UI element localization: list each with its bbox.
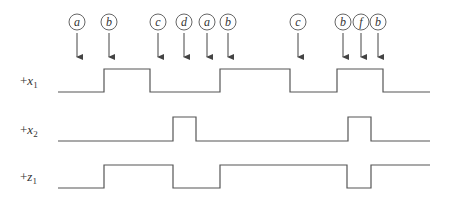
event-marker-d: d — [176, 14, 192, 57]
event-label: b — [106, 15, 112, 29]
event-label: f — [359, 15, 364, 29]
signal-label-x1: +x1 — [20, 73, 38, 90]
event-label: d — [181, 15, 188, 29]
event-marker-b: b — [335, 14, 351, 57]
event-label: c — [155, 15, 161, 29]
event-label: b — [225, 15, 231, 29]
event-marker-c: c — [150, 14, 166, 57]
waveform-x2 — [58, 117, 430, 141]
event-marker-b: b — [220, 14, 236, 57]
signal-waveforms — [58, 69, 430, 188]
event-marker-f: f — [353, 14, 369, 57]
signal-label-z1: +z1 — [20, 169, 37, 186]
signal-label-x2: +x2 — [20, 122, 38, 139]
waveform-x1 — [58, 69, 430, 92]
event-label: a — [74, 15, 80, 29]
event-marker-b: b — [370, 14, 386, 57]
event-marker-a: a — [199, 14, 215, 57]
event-marker-c: c — [290, 14, 306, 57]
waveform-z1 — [58, 165, 430, 188]
event-marker-b: b — [101, 14, 117, 57]
event-label: b — [340, 15, 346, 29]
event-marker-a: a — [69, 14, 85, 57]
timing-diagram: abcdabcbfb — [0, 0, 452, 204]
event-label: a — [204, 15, 210, 29]
event-label: c — [295, 15, 301, 29]
event-markers: abcdabcbfb — [69, 14, 386, 57]
event-label: b — [375, 15, 381, 29]
